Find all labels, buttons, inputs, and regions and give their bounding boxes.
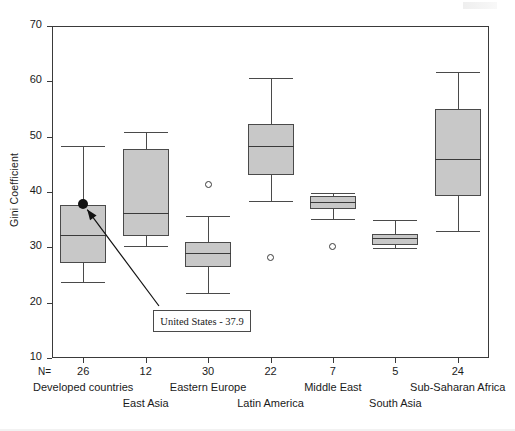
- whisker-lower: [146, 236, 147, 245]
- n-value: 26: [58, 365, 108, 377]
- x-tick-mark: [208, 358, 209, 363]
- whisker-upper: [395, 220, 396, 234]
- n-value: 24: [433, 365, 483, 377]
- n-value: 7: [308, 365, 358, 377]
- y-tick-label: 10: [10, 350, 42, 362]
- whisker-cap-upper: [249, 78, 293, 79]
- median-line: [185, 253, 231, 254]
- whisker-lower: [83, 263, 84, 282]
- whisker-cap-lower: [249, 201, 293, 202]
- y-tick-mark: [47, 137, 52, 138]
- whisker-cap-upper: [436, 72, 480, 73]
- median-line: [123, 213, 169, 214]
- y-tick-label: 50: [10, 129, 42, 141]
- whisker-lower: [333, 209, 334, 218]
- whisker-cap-lower: [311, 219, 355, 220]
- y-tick-mark: [47, 358, 52, 359]
- category-label-developed-countries: Developed countries: [18, 381, 148, 393]
- outlier-point: [267, 254, 274, 261]
- scan-artifact: [463, 2, 497, 9]
- whisker-cap-upper: [124, 132, 168, 133]
- y-tick-label: 60: [10, 73, 42, 85]
- n-value: 22: [246, 365, 296, 377]
- median-line: [372, 238, 418, 239]
- whisker-lower: [458, 196, 459, 230]
- category-label-east-asia: East Asia: [81, 397, 211, 409]
- median-line: [310, 202, 356, 203]
- whisker-cap-lower: [186, 293, 230, 294]
- whisker-upper: [146, 132, 147, 149]
- whisker-upper: [458, 72, 459, 109]
- category-label-middle-east: Middle East: [268, 381, 398, 393]
- y-tick-mark: [47, 81, 52, 82]
- whisker-cap-lower: [61, 282, 105, 283]
- whisker-lower: [208, 267, 209, 293]
- box-latin-america: [248, 124, 294, 175]
- n-equals-label: N=: [38, 366, 51, 377]
- category-label-south-asia: South Asia: [330, 397, 460, 409]
- n-value: 12: [121, 365, 171, 377]
- median-line: [435, 159, 481, 160]
- x-tick-mark: [83, 358, 84, 363]
- x-tick-mark: [271, 358, 272, 363]
- y-tick-mark: [47, 192, 52, 193]
- whisker-cap-upper: [373, 220, 417, 221]
- y-tick-mark: [47, 303, 52, 304]
- median-line: [248, 146, 294, 147]
- x-tick-mark: [333, 358, 334, 363]
- n-value: 5: [370, 365, 420, 377]
- whisker-cap-upper: [61, 146, 105, 147]
- whisker-upper: [83, 146, 84, 205]
- x-tick-mark: [458, 358, 459, 363]
- whisker-cap-lower: [124, 246, 168, 247]
- united-states-marker-dot: [78, 199, 88, 209]
- whisker-cap-upper: [186, 216, 230, 217]
- y-tick-mark: [47, 26, 52, 27]
- whisker-upper: [271, 78, 272, 124]
- outlier-point: [205, 181, 212, 188]
- box-eastern-europe: [185, 242, 231, 267]
- box-east-asia: [123, 149, 169, 236]
- y-tick-label: 40: [10, 184, 42, 196]
- united-states-callout: United States - 37.9: [153, 310, 251, 332]
- whisker-cap-lower: [436, 231, 480, 232]
- y-tick-mark: [47, 247, 52, 248]
- category-label-sub-saharan-africa: Sub-Saharan Africa: [393, 381, 515, 393]
- whisker-cap-upper: [311, 193, 355, 194]
- y-tick-label: 70: [10, 18, 42, 30]
- box-plot-chart: Gini Coefficient 70605040302010 26123022…: [0, 0, 515, 431]
- n-value: 30: [183, 365, 233, 377]
- y-tick-label: 30: [10, 239, 42, 251]
- category-label-latin-america: Latin America: [206, 397, 336, 409]
- x-tick-mark: [395, 358, 396, 363]
- x-tick-mark: [146, 358, 147, 363]
- median-line: [60, 235, 106, 236]
- whisker-lower: [271, 175, 272, 201]
- category-label-eastern-europe: Eastern Europe: [143, 381, 273, 393]
- box-south-asia: [372, 234, 418, 245]
- y-tick-label: 20: [10, 295, 42, 307]
- box-sub-saharan-africa: [435, 109, 481, 196]
- whisker-cap-lower: [373, 248, 417, 249]
- whisker-upper: [208, 216, 209, 242]
